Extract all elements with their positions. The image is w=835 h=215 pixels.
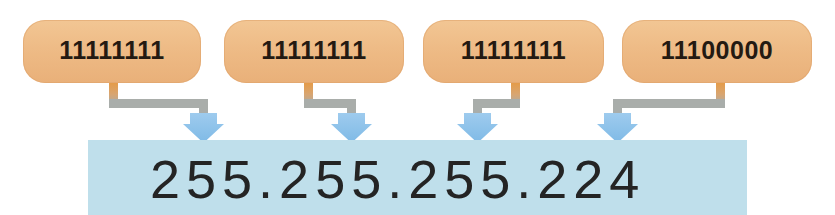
binary-to-decimal-diagram: 11111111 11111111 11111111 11100000 255.…: [0, 0, 835, 215]
octet-binary-label-1: 11111111: [59, 38, 165, 63]
octet-box-2: 11111111: [224, 20, 404, 83]
result-dotted-decimal: 255.255.255.224: [150, 152, 645, 206]
connector-3: [457, 80, 520, 143]
arrow-down-1: [183, 113, 224, 143]
arrow-down-3: [457, 113, 498, 143]
octet-binary-label-4: 11100000: [661, 38, 773, 63]
connector-4: [597, 80, 725, 143]
octet-binary-label-3: 11111111: [461, 38, 567, 63]
octet-box-3: 11111111: [423, 20, 604, 83]
arrow-down-2: [331, 113, 372, 143]
octet-binary-label-2: 11111111: [261, 38, 367, 63]
arrow-down-4: [597, 113, 638, 143]
connector-2: [304, 80, 372, 143]
octet-box-1: 11111111: [23, 20, 201, 83]
octet-box-4: 11100000: [622, 20, 812, 83]
connector-1: [109, 80, 224, 143]
